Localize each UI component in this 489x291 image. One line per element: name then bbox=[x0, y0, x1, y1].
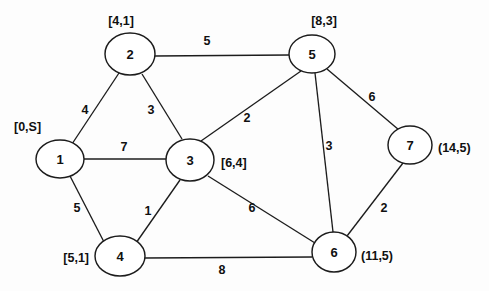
edge-weight-1-2: 4 bbox=[82, 103, 89, 117]
edge-weight-5-7: 6 bbox=[369, 90, 376, 104]
graph-node-1: 1 bbox=[36, 140, 84, 178]
graph-node-6: 6 bbox=[312, 232, 356, 272]
graph-edge-3-4 bbox=[136, 180, 180, 243]
graph-diagram-canvas: 1234567 475532163628 [0,S][4,1][6,4][5,1… bbox=[0, 0, 489, 291]
graph-edge-4-6 bbox=[145, 257, 312, 258]
graph-edge-3-5 bbox=[201, 71, 301, 141]
graph-node-2: 2 bbox=[105, 33, 155, 75]
node-label-3: 3 bbox=[186, 153, 193, 168]
edge-weight-4-6: 8 bbox=[219, 263, 226, 277]
graph-edge-3-6 bbox=[208, 176, 315, 243]
graph-node-5: 5 bbox=[289, 35, 335, 73]
edge-weight-2-5: 5 bbox=[204, 34, 211, 48]
graph-svg: 1234567 475532163628 [0,S][4,1][6,4][5,1… bbox=[0, 0, 489, 291]
node-annotation-5: [8,3] bbox=[311, 14, 337, 28]
node-label-6: 6 bbox=[330, 245, 337, 260]
node-label-1: 1 bbox=[56, 152, 63, 167]
edge-weight-1-4: 5 bbox=[74, 201, 81, 215]
edge-weight-3-5: 2 bbox=[244, 111, 251, 125]
edge-weight-6-7: 2 bbox=[381, 201, 388, 215]
graph-node-7: 7 bbox=[388, 126, 432, 164]
graph-node-4: 4 bbox=[95, 236, 145, 276]
nodes-layer: 1234567 bbox=[36, 33, 432, 276]
node-label-7: 7 bbox=[406, 138, 413, 153]
graph-edge-2-5 bbox=[155, 55, 289, 56]
edge-weight-3-4: 1 bbox=[145, 204, 152, 218]
graph-node-3: 3 bbox=[166, 139, 214, 181]
edge-weight-3-6: 6 bbox=[249, 201, 256, 215]
node-label-5: 5 bbox=[308, 47, 315, 62]
node-annotation-3: [6,4] bbox=[221, 156, 247, 170]
graph-edge-6-7 bbox=[347, 163, 403, 236]
graph-edge-1-2 bbox=[72, 73, 119, 144]
graph-edge-5-7 bbox=[327, 69, 399, 130]
edge-weight-2-3: 3 bbox=[148, 103, 155, 117]
node-annotation-4: [5,1] bbox=[63, 251, 89, 265]
node-annotation-1: [0,S] bbox=[14, 120, 41, 134]
edge-weight-5-6: 3 bbox=[326, 139, 333, 153]
node-annotation-2: [4,1] bbox=[108, 14, 134, 28]
node-label-2: 2 bbox=[126, 47, 133, 62]
node-annotation-6: (11,5) bbox=[361, 249, 393, 263]
node-annotation-7: (14,5) bbox=[438, 141, 471, 155]
node-label-4: 4 bbox=[116, 249, 124, 264]
edge-weight-1-3: 7 bbox=[121, 140, 128, 154]
